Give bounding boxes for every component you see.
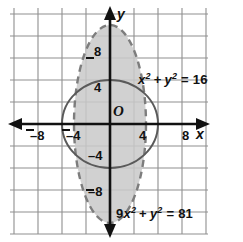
- ellipse-eq-operator: +: [136, 206, 150, 221]
- y-tick-label-4: 4: [94, 80, 101, 95]
- circle-eq-rhs: = 16: [177, 72, 207, 87]
- x-tick-label--8: –8: [30, 128, 44, 143]
- x-tick-label--4: –4: [66, 128, 80, 143]
- x-tick-label-4: 4: [139, 128, 146, 143]
- y-tick-label--8: –8: [88, 184, 102, 199]
- ellipse-eq-x: x: [123, 206, 130, 221]
- origin-label: O: [113, 103, 124, 120]
- coordinate-plane-figure: O –8 –4 4 8 8 4 –4 –8 x y x2+y2= 16 9x2+…: [0, 0, 243, 242]
- x-axis-name: x: [196, 126, 204, 142]
- circle-eq-x-exponent: 2: [145, 71, 150, 81]
- circle-equation-label: x2+y2= 16: [138, 72, 208, 87]
- ellipse-equation-label: 9x2+y2= 81: [116, 206, 193, 221]
- circle-eq-operator: +: [151, 72, 165, 87]
- y-tick-label-8: 8: [94, 44, 101, 59]
- circle-eq-y: y: [164, 72, 171, 87]
- ellipse-eq-y-exponent: 2: [157, 205, 162, 215]
- y-tick-label--4: –4: [88, 148, 102, 163]
- y-axis-name: y: [117, 6, 125, 22]
- x-tick-label-8: 8: [182, 128, 189, 143]
- ellipse-eq-rhs: = 81: [163, 206, 193, 221]
